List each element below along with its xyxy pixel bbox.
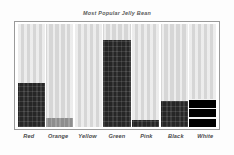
bar-column-black: [161, 24, 188, 127]
bar-column-green: [103, 24, 130, 127]
bar-white: [189, 99, 216, 127]
x-label-green: Green: [102, 132, 131, 146]
x-label-white: White: [191, 132, 220, 146]
x-axis-labels: Red Orange Yellow Green Pink Black White: [14, 132, 220, 146]
bar-pink: [132, 120, 159, 127]
x-label-orange: Orange: [43, 132, 72, 146]
plot-frame: [14, 21, 220, 130]
bar-column-red: [18, 24, 45, 127]
bar-red: [18, 83, 45, 127]
bar-column-orange: [46, 24, 73, 127]
jelly-bean-bar-chart: Most Popular Jelly Bean: [0, 0, 234, 155]
bar-column-white: [189, 24, 216, 127]
bar-black: [161, 101, 188, 127]
x-label-pink: Pink: [132, 132, 161, 146]
bar-orange: [46, 118, 73, 127]
plot-area: [17, 24, 217, 127]
x-label-red: Red: [14, 132, 43, 146]
x-label-yellow: Yellow: [73, 132, 102, 146]
bar-column-yellow: [75, 24, 102, 127]
chart-title: Most Popular Jelly Bean: [0, 9, 234, 17]
x-label-black: Black: [161, 132, 190, 146]
bar-green: [103, 40, 130, 127]
bar-column-pink: [132, 24, 159, 127]
